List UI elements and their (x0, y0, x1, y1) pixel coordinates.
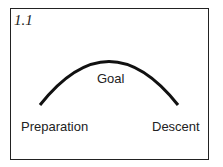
label-descent: Descent (152, 119, 200, 134)
label-preparation: Preparation (21, 119, 88, 134)
label-goal: Goal (97, 71, 124, 86)
